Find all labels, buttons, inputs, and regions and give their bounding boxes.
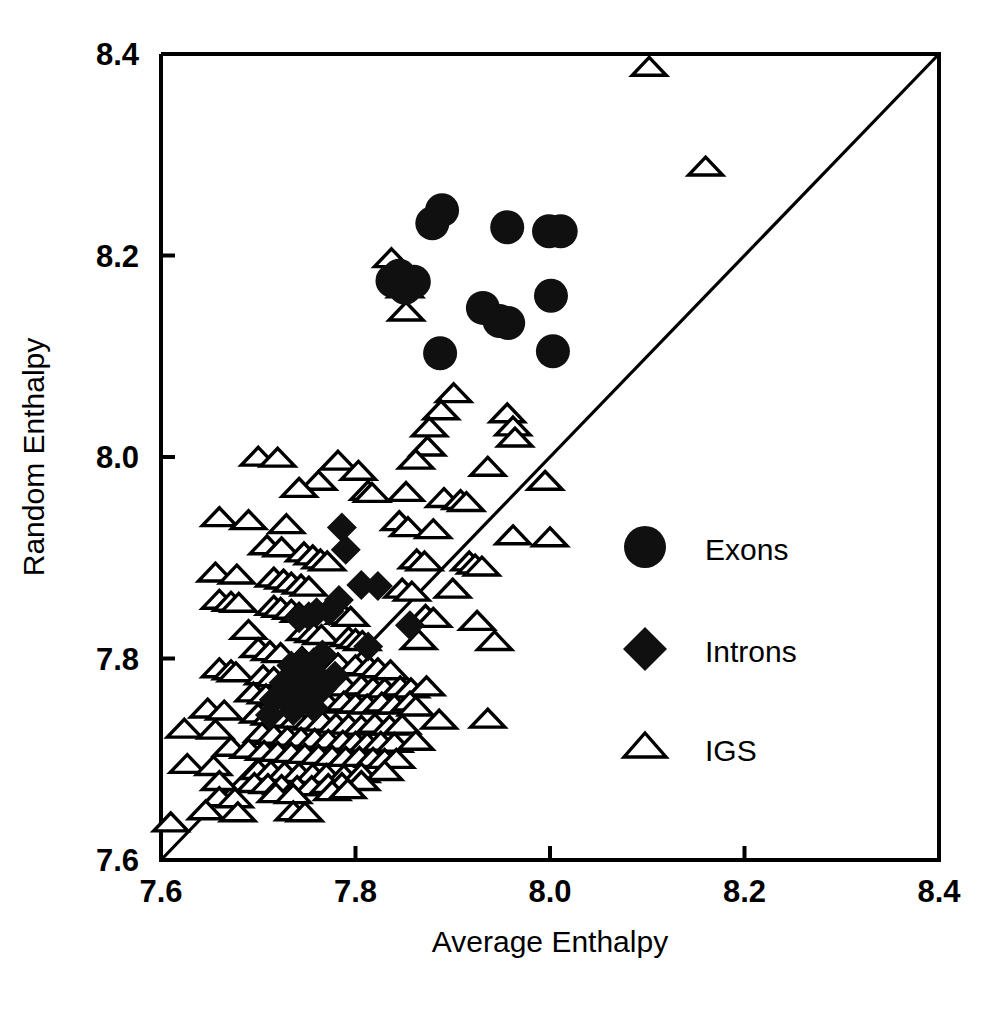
data-point-igs (471, 457, 505, 475)
y-axis-title: Random Enthalpy (17, 338, 50, 576)
data-point-igs (202, 508, 236, 526)
data-point-exon (388, 271, 422, 305)
y-tick-label: 8.2 (96, 239, 139, 274)
y-tick-label: 7.6 (96, 843, 139, 878)
data-point-igs (154, 813, 188, 831)
legend-label-exons: Exons (705, 533, 788, 566)
y-tick-label: 8.4 (96, 37, 140, 72)
data-point-igs (232, 621, 266, 639)
data-point-igs (471, 709, 505, 727)
legend-item-exons[interactable]: Exons (624, 526, 788, 568)
data-point-igs (533, 528, 567, 546)
data-point-igs (197, 757, 231, 775)
data-point-igs (269, 515, 303, 533)
y-tick-label: 8.0 (96, 440, 139, 475)
x-tick-label: 8.0 (528, 874, 571, 909)
data-point-igs (416, 520, 450, 538)
open-triangle-icon (624, 733, 666, 757)
data-point-exon (490, 210, 524, 244)
data-point-exon (544, 214, 578, 248)
x-tick-label: 7.8 (334, 874, 377, 909)
data-point-igs (389, 302, 423, 320)
y-tick-label: 7.8 (96, 642, 139, 677)
data-point-igs (478, 632, 512, 650)
data-point-igs (436, 579, 470, 597)
data-point-igs (389, 483, 423, 501)
data-point-exon (536, 334, 570, 368)
legend-label-igs: IGS (705, 734, 757, 767)
legend-item-introns[interactable]: Introns (623, 627, 797, 671)
legend-item-igs[interactable]: IGS (624, 733, 757, 767)
series-igs-markers (154, 57, 723, 830)
data-point-igs (167, 719, 201, 737)
data-point-exon (534, 279, 568, 313)
data-point-exon (415, 206, 449, 240)
filled-circle-icon (624, 526, 666, 568)
x-axis-title: Average Enthalpy (432, 925, 668, 958)
legend: Exons Introns IGS (623, 526, 797, 767)
legend-label-introns: Introns (705, 635, 797, 668)
data-point-igs (496, 526, 530, 544)
data-point-igs (321, 451, 355, 469)
data-point-igs (437, 384, 471, 402)
scatter-plot-figure: 7.67.88.08.28.47.67.88.08.28.4 Average E… (0, 0, 986, 1012)
data-point-exon (491, 306, 525, 340)
data-point-igs (689, 157, 723, 175)
filled-diamond-icon (623, 627, 667, 671)
data-point-igs (632, 57, 666, 75)
data-point-igs (490, 404, 524, 422)
data-point-exon (423, 336, 457, 370)
series-exons-markers (375, 193, 577, 370)
data-point-igs (232, 511, 266, 529)
data-point-igs (460, 612, 494, 630)
x-tick-label: 8.2 (723, 874, 766, 909)
x-tick-label: 7.6 (139, 874, 182, 909)
plot-canvas: 7.67.88.08.28.47.67.88.08.28.4 Average E… (0, 0, 986, 1012)
x-tick-label: 8.4 (917, 874, 961, 909)
data-point-intron (327, 513, 357, 543)
data-point-igs (412, 418, 446, 436)
data-point-igs (198, 720, 232, 738)
